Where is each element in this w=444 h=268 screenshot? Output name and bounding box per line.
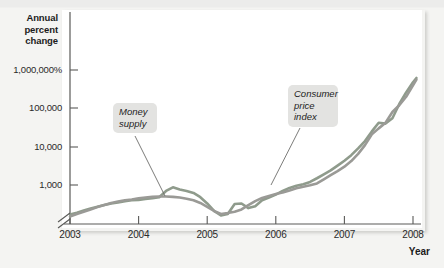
leader-line-money-supply — [135, 136, 165, 196]
chart-svg — [0, 0, 444, 268]
series-label-cpi-line-3: index — [294, 111, 332, 123]
x-tick-label: 2003 — [45, 229, 95, 240]
callout-leader-lines — [135, 128, 300, 196]
y-axis-break-mark — [58, 213, 70, 228]
leader-line-cpi — [271, 128, 300, 185]
series-label-money-supply: Money supply — [113, 103, 157, 133]
series-label-consumer-price-index: Consumer price index — [288, 85, 338, 127]
x-tick-label: 2007 — [319, 229, 369, 240]
y-tick-label: 1,000,000% — [0, 64, 62, 75]
y-tick-label: 100,000 — [0, 102, 62, 113]
series-label-cpi-line-1: Consumer — [294, 88, 332, 100]
x-tick-label: 2004 — [114, 229, 164, 240]
series-label-cpi-line-2: price — [294, 100, 332, 112]
x-tick-label: 2008 — [388, 229, 438, 240]
y-tick-label: 1,000 — [0, 179, 62, 190]
series-label-money-supply-line-1: Money — [119, 106, 151, 118]
y-tick-label: 10,000 — [0, 141, 62, 152]
series-label-money-supply-line-2: supply — [119, 118, 151, 130]
data-series-lines — [70, 78, 416, 217]
figure-container: Annual percent change 1,000 10,000 100,0… — [0, 0, 444, 268]
x-axis-title: Year — [409, 246, 430, 257]
series-line-consumer-price-index — [70, 80, 416, 217]
x-tick-label: 2006 — [251, 229, 301, 240]
x-tick-label: 2005 — [182, 229, 232, 240]
